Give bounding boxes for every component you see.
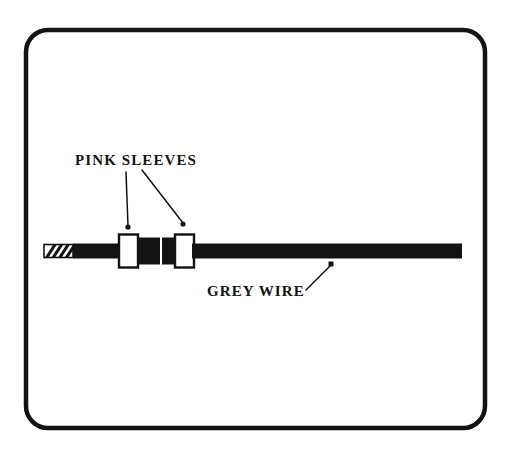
crimp-block-1: [139, 238, 160, 265]
grey-wire-run: [192, 244, 462, 259]
label-pink-sleeves: PINK SLEEVES: [75, 152, 197, 168]
diagram-background: [0, 0, 513, 450]
label-grey-wire: GREY WIRE: [207, 283, 305, 299]
cable-assembly-diagram: PINK SLEEVES GREY WIRE: [0, 0, 513, 450]
stripped-tip: [44, 244, 76, 259]
pink-sleeve-1: [119, 235, 138, 268]
diagram-canvas: PINK SLEEVES GREY WIRE: [0, 0, 513, 450]
pink-sleeve-2: [175, 235, 194, 268]
wire-left-of-sleeve-1: [73, 244, 121, 259]
